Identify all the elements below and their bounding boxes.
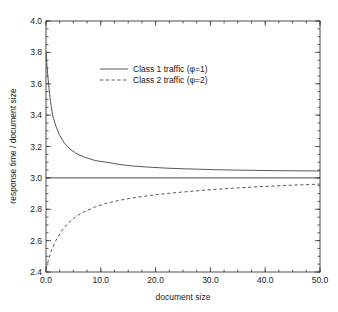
x-axis-title: document size bbox=[156, 292, 211, 302]
y-tick-label: 3.6 bbox=[30, 79, 42, 89]
x-tick-label: 50.0 bbox=[312, 275, 329, 285]
y-axis-ticks: 2.42.62.83.03.23.43.63.84.0 bbox=[30, 16, 320, 277]
x-tick-label: 30.0 bbox=[202, 275, 219, 285]
chart-legend: Class 1 traffic (φ=1) Class 2 traffic (φ… bbox=[100, 64, 208, 85]
y-tick-label: 3.2 bbox=[30, 142, 42, 152]
y-tick-label: 2.4 bbox=[30, 267, 42, 277]
y-tick-label: 2.6 bbox=[30, 236, 42, 246]
x-axis-ticks: 0.010.020.030.040.050.0 bbox=[40, 21, 328, 285]
y-axis-title: response time / document size bbox=[8, 88, 18, 204]
y-tick-label: 4.0 bbox=[30, 16, 42, 26]
x-tick-label: 20.0 bbox=[147, 275, 164, 285]
y-tick-label: 3.4 bbox=[30, 110, 42, 120]
chart-figure: 0.010.020.030.040.050.0 2.42.62.83.03.23… bbox=[0, 0, 338, 312]
x-tick-label: 10.0 bbox=[93, 275, 110, 285]
series-line-2 bbox=[46, 184, 320, 269]
plot-frame bbox=[46, 21, 320, 272]
y-tick-label: 3.0 bbox=[30, 173, 42, 183]
x-tick-label: 40.0 bbox=[257, 275, 274, 285]
legend-label-class-2: Class 2 traffic (φ=2) bbox=[133, 75, 208, 85]
y-tick-label: 2.8 bbox=[30, 204, 42, 214]
plot-canvas: 0.010.020.030.040.050.0 2.42.62.83.03.23… bbox=[0, 0, 338, 312]
legend-label-class-1: Class 1 traffic (φ=1) bbox=[133, 64, 208, 74]
y-tick-label: 3.8 bbox=[30, 47, 42, 57]
